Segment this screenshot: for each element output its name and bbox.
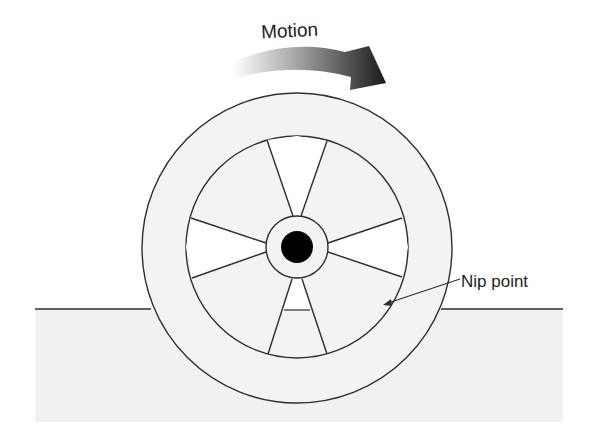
- axle: [281, 231, 313, 263]
- nip-point-diagram: Motion Nip point: [0, 0, 594, 446]
- motion-arrow-icon: [232, 46, 386, 90]
- nip-point-label: Nip point: [461, 272, 528, 291]
- motion-label: Motion: [261, 19, 319, 43]
